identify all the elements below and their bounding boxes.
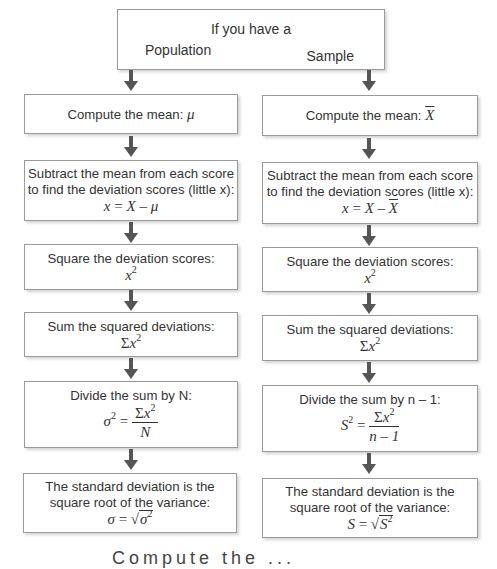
start-title: If you have a	[118, 21, 384, 37]
sample-stddev-box: The standard deviation is the square roo…	[262, 478, 478, 538]
population-mean-box: Compute the mean: μ	[24, 94, 238, 134]
arrow-down-icon	[362, 138, 376, 160]
population-deviation-line2: to find the deviation scores (little x):	[25, 182, 237, 198]
population-sum-formula: Σx2	[25, 335, 237, 351]
population-variance-formula: σ2 = Σx2N	[25, 405, 237, 440]
sample-deviation-line1: Subtract the mean from each score	[263, 168, 477, 184]
arrow-down-icon	[362, 70, 376, 92]
arrow-down-icon	[124, 222, 138, 244]
sample-divide-box: Divide the sum by n – 1: S2 = Σx2n – 1	[262, 385, 478, 452]
arrow-down-icon	[362, 225, 376, 247]
population-deviation-line1: Subtract the mean from each score	[25, 166, 237, 182]
sample-stddev-formula: S = √S2	[263, 516, 477, 532]
population-divide-box: Divide the sum by N: σ2 = Σx2N	[24, 381, 238, 448]
population-mean-text: Compute the mean:	[67, 107, 183, 122]
start-box: If you have a Population Sample	[117, 9, 385, 70]
sample-sum-formula: Σx2	[263, 338, 477, 354]
population-stddev-line1: The standard deviation is the	[24, 479, 236, 495]
sample-mean-box: Compute the mean: X	[262, 95, 478, 136]
population-divide-text: Divide the sum by N:	[25, 388, 237, 404]
population-square-box: Square the deviation scores: x2	[24, 244, 238, 290]
arrow-down-icon	[124, 70, 138, 92]
arrow-down-icon	[124, 136, 138, 158]
sample-stddev-line2: square root of the variance:	[263, 500, 477, 516]
cut-off-caption: Compute the ...	[112, 548, 295, 569]
population-stddev-line2: square root of the variance:	[24, 495, 236, 511]
sample-deviation-line2: to find the deviation scores (little x):	[263, 184, 477, 200]
arrow-down-icon	[362, 293, 376, 315]
arrow-down-icon	[124, 358, 138, 380]
sample-stddev-line1: The standard deviation is the	[263, 484, 477, 500]
population-stddev-formula: σ = √σ2	[24, 511, 236, 527]
population-mean-symbol: μ	[187, 106, 195, 122]
sample-divide-text: Divide the sum by n – 1:	[263, 392, 477, 408]
population-sum-box: Sum the squared deviations: Σx2	[24, 312, 238, 357]
population-label: Population	[145, 42, 211, 58]
sample-square-box: Square the deviation scores: x2	[262, 247, 478, 292]
sample-sum-box: Sum the squared deviations: Σx2	[262, 315, 478, 361]
sample-deviation-box: Subtract the mean from each score to fin…	[262, 162, 478, 224]
sample-label: Sample	[307, 48, 354, 64]
population-square-formula: x2	[25, 267, 237, 283]
population-square-text: Square the deviation scores:	[25, 251, 237, 267]
sample-mean-text: Compute the mean:	[306, 108, 422, 123]
sample-square-formula: x2	[263, 270, 477, 286]
sample-square-text: Square the deviation scores:	[263, 254, 477, 270]
population-stddev-box: The standard deviation is the square roo…	[23, 473, 237, 533]
sample-sum-text: Sum the squared deviations:	[263, 322, 477, 338]
sample-mean-symbol: X	[425, 107, 434, 123]
sample-deviation-formula: x = X – X	[263, 200, 477, 216]
arrow-down-icon	[362, 453, 376, 475]
arrow-down-icon	[124, 449, 138, 471]
population-deviation-formula: x = X – μ	[25, 198, 237, 214]
population-sum-text: Sum the squared deviations:	[25, 319, 237, 335]
population-deviation-box: Subtract the mean from each score to fin…	[24, 160, 238, 221]
arrow-down-icon	[362, 362, 376, 384]
sample-variance-formula: S2 = Σx2n – 1	[263, 409, 477, 444]
arrow-down-icon	[124, 290, 138, 312]
